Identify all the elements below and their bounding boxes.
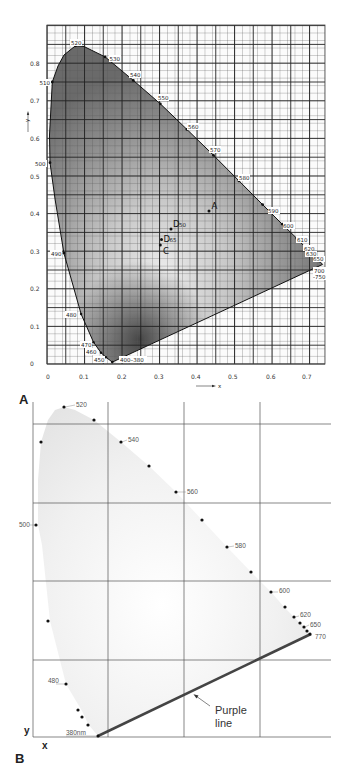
- panel-a: 520 530 540 550 560 570 580 590 600 610 …: [19, 25, 326, 407]
- x-tick: 0.3: [154, 373, 164, 380]
- y-tick: 0: [30, 360, 34, 367]
- y-tick: 0.4: [30, 210, 40, 217]
- x-tick: 0: [46, 373, 50, 380]
- wl-b-560: 560: [187, 488, 198, 495]
- wl-520: 520: [71, 40, 82, 46]
- wl-590: 590: [268, 208, 279, 214]
- wl-460: 460: [86, 349, 97, 355]
- y-axis-label-b: y: [24, 725, 30, 736]
- wl-540: 540: [130, 72, 141, 78]
- y-tick: 0.5: [30, 173, 40, 180]
- wl-450: 450: [94, 357, 105, 363]
- x-tick: 0.6: [266, 373, 276, 380]
- panel-a-label: A: [19, 392, 29, 407]
- x-axis-label-a: x: [218, 383, 222, 389]
- wl-b-540: 540: [128, 436, 139, 443]
- wl-b-580: 580: [235, 542, 246, 549]
- y-tick: 0.2: [30, 285, 40, 292]
- y-tick: 0.6: [30, 135, 40, 142]
- purple-line-annotation: Purple line: [194, 694, 247, 729]
- illuminant-a-label: A: [212, 201, 218, 211]
- wl-470: 470: [81, 342, 92, 348]
- chromaticity-figure: 520 530 540 550 560 570 580 590 600 610 …: [0, 0, 344, 765]
- y-axis-arrow-a: y: [24, 111, 31, 132]
- wl-530: 530: [110, 56, 121, 62]
- wl-650: 650: [313, 256, 324, 262]
- x-tick: 0.1: [79, 373, 89, 380]
- illuminant-a-point: [208, 209, 211, 212]
- wl-b-650: 650: [310, 621, 321, 628]
- panel-b-label: B: [15, 751, 24, 765]
- x-tick: 0.2: [117, 373, 127, 380]
- illuminant-d50-sub: 50: [179, 222, 186, 228]
- y-tick: 0.1: [30, 323, 40, 330]
- wl-560: 560: [188, 124, 199, 130]
- wl-b-480: 480: [48, 677, 59, 684]
- x-axis-arrow-a: x: [196, 383, 222, 389]
- wl-b-620: 620: [300, 611, 311, 618]
- spectral-locus-fill-b: [38, 407, 311, 736]
- wl-b-380: 380nm: [66, 729, 86, 736]
- x-tick: 0.7: [302, 373, 312, 380]
- illuminant-c-label: C: [163, 246, 169, 256]
- wl-b-600: 600: [279, 587, 290, 594]
- illuminant-d65-sub: 65: [170, 237, 177, 243]
- wl-700: 700: [314, 268, 325, 274]
- wl-480: 480: [66, 312, 77, 318]
- wl-600: 600: [283, 223, 294, 229]
- y-tick: 0.8: [30, 60, 40, 67]
- wl-570: 570: [210, 147, 221, 153]
- purple-line-label-2: line: [215, 717, 232, 729]
- x-tick: 0.5: [228, 373, 238, 380]
- x-axis-label-b: x: [42, 740, 48, 751]
- wl-610: 610: [297, 237, 308, 243]
- wl-510: 510: [40, 80, 51, 86]
- y-tick: 0.7: [30, 97, 40, 104]
- wl-b-500: 500: [19, 521, 30, 528]
- illuminant-c-point: [159, 244, 162, 247]
- wl-b-770: 770: [315, 633, 326, 640]
- y-axis-label-a: y: [24, 118, 31, 122]
- wl-500: 500: [35, 161, 46, 167]
- wl-b-520: 520: [76, 401, 87, 408]
- x-ticks-a: 0 0.1 0.2 0.3 0.4 0.5 0.6 0.7: [46, 373, 312, 380]
- wl-400-380: 400–380: [120, 357, 144, 363]
- y-ticks-a: 0 0.1 0.2 0.3 0.4 0.5 0.6 0.7 0.8: [30, 60, 40, 367]
- wl-750: -750: [313, 274, 326, 280]
- wl-580: 580: [239, 175, 250, 181]
- wl-550: 550: [158, 95, 169, 101]
- wl-490: 490: [51, 251, 62, 257]
- y-tick: 0.3: [30, 248, 40, 255]
- panel-b: 520 540 560 580 600 620 650 770 500 480 …: [15, 401, 331, 765]
- purple-line-label-1: Purple: [215, 704, 247, 716]
- x-tick: 0.4: [191, 373, 201, 380]
